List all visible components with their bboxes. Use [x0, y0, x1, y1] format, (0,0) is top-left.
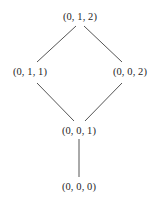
node-label-top: (0, 1, 2) [63, 11, 97, 23]
edge-left-middle [37, 83, 74, 121]
edge-layer [0, 0, 160, 204]
node-label-middle: (0, 0, 1) [62, 125, 96, 137]
edge-top-right [84, 26, 122, 62]
node-label-bottom: (0, 0, 0) [62, 181, 96, 193]
edge-right-middle [85, 83, 122, 121]
node-label-left: (0, 1, 1) [13, 66, 47, 78]
hasse-diagram: (0, 1, 2) (0, 1, 1) (0, 0, 2) (0, 0, 1) … [0, 0, 160, 204]
node-label-right: (0, 0, 2) [113, 66, 147, 78]
edge-top-left [37, 26, 76, 62]
